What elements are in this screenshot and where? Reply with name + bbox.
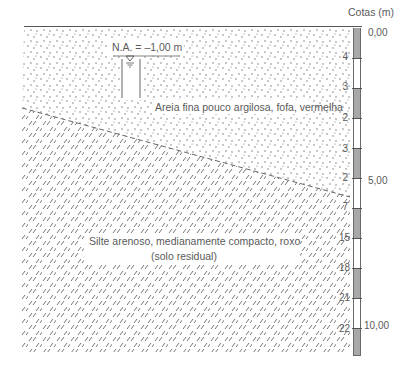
spt-value: 2 bbox=[328, 172, 348, 183]
spt-segment bbox=[353, 268, 361, 298]
depth-label: 10,00 bbox=[364, 320, 389, 331]
spt-value: 3 bbox=[328, 143, 348, 154]
sand-layer-label: Areia fina pouco argilosa, fofa, vermelh… bbox=[155, 101, 343, 113]
spt-segment bbox=[353, 328, 361, 356]
spt-segment bbox=[353, 178, 361, 208]
spt-segment bbox=[353, 238, 361, 268]
water-level-label: N.A. = –1,00 m bbox=[112, 41, 182, 53]
spt-value: 18 bbox=[330, 262, 350, 273]
spt-segment bbox=[353, 298, 361, 328]
spt-segment bbox=[353, 28, 361, 58]
spt-value: 3 bbox=[328, 81, 348, 92]
spt-segment bbox=[353, 118, 361, 148]
spt-segment bbox=[353, 208, 361, 238]
cotas-header: Cotas (m) bbox=[348, 6, 394, 18]
spt-value: 15 bbox=[330, 232, 350, 243]
depth-label: 0,00 bbox=[368, 27, 387, 38]
spt-value: 7 bbox=[328, 201, 348, 212]
spt-segment bbox=[353, 58, 361, 88]
silt-layer-label: Silte arenoso, medianamente compacto, ro… bbox=[89, 235, 300, 247]
spt-segment bbox=[353, 88, 361, 118]
silt-layer-sublabel: (solo residual) bbox=[151, 250, 217, 262]
spt-value: 21 bbox=[330, 292, 350, 303]
spt-value: 2 bbox=[328, 112, 348, 123]
spt-segment bbox=[353, 148, 361, 178]
depth-label: 5,00 bbox=[368, 175, 387, 186]
spt-value: 4 bbox=[328, 51, 348, 62]
spt-value: 22 bbox=[330, 323, 350, 334]
